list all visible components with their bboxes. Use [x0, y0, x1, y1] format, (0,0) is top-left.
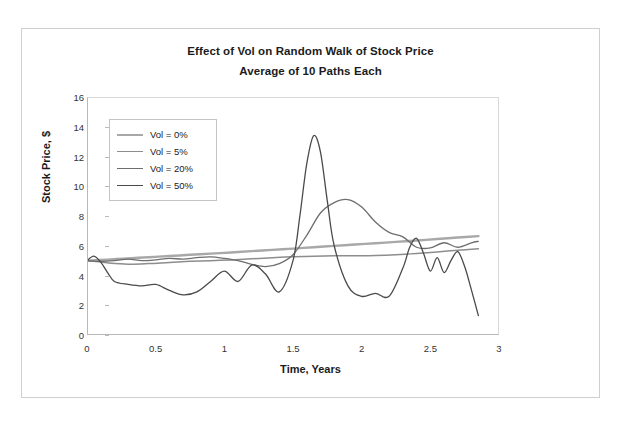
x-tick-label: 1.5 [273, 343, 313, 354]
legend-item[interactable]: Vol = 20% [110, 160, 216, 177]
legend-item-label: Vol = 5% [150, 146, 188, 157]
legend-line-swatch [117, 151, 143, 152]
y-tick-label: 4 [44, 270, 84, 281]
legend-line-swatch [117, 134, 143, 136]
y-axis-ticks: 0246810121416 [40, 97, 84, 335]
y-tick-label: 16 [44, 92, 84, 103]
y-tick-mark [105, 335, 109, 336]
legend-item-label: Vol = 20% [150, 163, 193, 174]
x-tick-label: 2 [342, 343, 382, 354]
legend-item-label: Vol = 50% [150, 180, 193, 191]
legend-item-label: Vol = 0% [150, 129, 188, 140]
y-tick-label: 2 [44, 300, 84, 311]
x-tick-label: 0 [67, 343, 107, 354]
y-tick-label: 12 [44, 151, 84, 162]
chart-title: Effect of Vol on Random Walk of Stock Pr… [22, 41, 599, 61]
legend-item[interactable]: Vol = 5% [110, 143, 216, 160]
legend-item[interactable]: Vol = 0% [110, 126, 216, 143]
figure-frame: Effect of Vol on Random Walk of Stock Pr… [21, 28, 600, 398]
y-tick-label: 6 [44, 240, 84, 251]
legend-item[interactable]: Vol = 50% [110, 177, 216, 194]
x-tick-label: 1 [204, 343, 244, 354]
chart-title-block: Effect of Vol on Random Walk of Stock Pr… [22, 41, 599, 81]
x-tick-label: 3 [479, 343, 519, 354]
legend-line-swatch [117, 185, 143, 186]
x-tick-label: 2.5 [410, 343, 450, 354]
chart-legend: Vol = 0%Vol = 5%Vol = 20%Vol = 50% [109, 119, 217, 201]
y-tick-label: 14 [44, 121, 84, 132]
x-axis-label: Time, Years [22, 363, 599, 375]
x-tick-label: 0.5 [136, 343, 176, 354]
y-tick-label: 10 [44, 181, 84, 192]
legend-line-swatch [117, 168, 143, 169]
x-axis-ticks: 00.511.522.53 [87, 343, 499, 359]
y-tick-label: 8 [44, 211, 84, 222]
y-tick-label: 0 [44, 330, 84, 341]
chart-subtitle: Average of 10 Paths Each [22, 61, 599, 81]
